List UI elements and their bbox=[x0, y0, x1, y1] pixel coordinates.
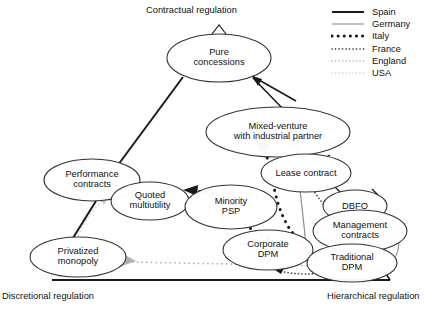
axis-label-bottom-left: Discretional regulation bbox=[2, 291, 94, 301]
legend-label: Spain bbox=[372, 7, 396, 17]
legend-item-germany[interactable]: Germany bbox=[331, 18, 410, 30]
legend-item-england[interactable]: England bbox=[331, 55, 410, 67]
legend-swatch-spain-icon bbox=[331, 6, 365, 18]
axis-label-top: Contractual regulation bbox=[146, 5, 237, 15]
legend-label: Italy bbox=[372, 31, 389, 41]
legend-item-usa[interactable]: USA bbox=[331, 67, 410, 79]
legend-label: Germany bbox=[372, 19, 410, 29]
legend-swatch-germany-icon bbox=[331, 18, 365, 30]
node-pure-concessions[interactable] bbox=[167, 34, 271, 82]
node-corporate-dpm[interactable] bbox=[223, 230, 313, 270]
node-minority-psp[interactable] bbox=[185, 185, 277, 229]
node-privatized-monopoly[interactable] bbox=[30, 237, 126, 277]
legend-swatch-italy-icon bbox=[331, 30, 365, 42]
axis-label-bottom-right: Hierarchical regulation bbox=[327, 291, 420, 301]
legend-item-spain[interactable]: Spain bbox=[331, 6, 410, 18]
legend-item-france[interactable]: France bbox=[331, 43, 410, 55]
node-traditional-dpm[interactable] bbox=[307, 244, 397, 282]
node-mixed-venture[interactable] bbox=[206, 107, 350, 157]
legend: SpainGermanyItalyFranceEnglandUSA bbox=[331, 6, 410, 79]
legend-swatch-usa-icon bbox=[331, 67, 365, 79]
legend-label: England bbox=[372, 56, 406, 66]
legend-swatch-france-icon bbox=[331, 43, 365, 55]
legend-item-italy[interactable]: Italy bbox=[331, 30, 410, 42]
node-quoted-multiutility[interactable] bbox=[111, 182, 189, 220]
node-lease-contract[interactable] bbox=[261, 154, 351, 192]
diagram-canvas: PureconcessionsMixed-venturewith industr… bbox=[0, 0, 443, 318]
legend-label: USA bbox=[372, 68, 391, 78]
legend-label: France bbox=[372, 44, 401, 54]
legend-swatch-england-icon bbox=[331, 55, 365, 67]
